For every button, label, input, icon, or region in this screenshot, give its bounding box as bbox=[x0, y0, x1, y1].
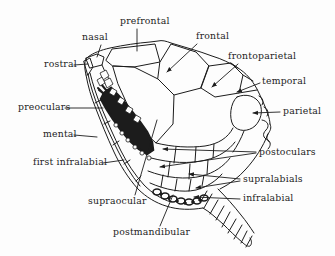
leader-supralabials-1 bbox=[189, 174, 240, 179]
leader-postoculars-1 bbox=[163, 149, 256, 152]
eye-shading bbox=[97, 70, 153, 160]
label-frontoparietal: frontoparietal bbox=[228, 51, 296, 61]
label-supraocular: supraocular bbox=[88, 196, 147, 206]
label-parietal: parietal bbox=[283, 106, 321, 116]
label-nasal: nasal bbox=[82, 32, 108, 42]
leader-frontoparietal bbox=[212, 64, 238, 87]
leader-parietal bbox=[253, 112, 280, 113]
scale-mesh bbox=[84, 44, 261, 191]
label-preoculars: preoculars bbox=[18, 102, 70, 112]
label-supralabials: supralabials bbox=[243, 174, 303, 184]
leader-frontal bbox=[167, 44, 197, 72]
preocular-scales bbox=[97, 70, 113, 88]
label-infralabial: infralabial bbox=[243, 193, 294, 203]
label-postoculars: postoculars bbox=[259, 147, 316, 157]
label-temporal: temporal bbox=[262, 76, 306, 86]
label-prefrontal: prefrontal bbox=[120, 16, 170, 26]
label-first-infralabial: first infralabial bbox=[33, 157, 107, 167]
label-frontal: frontal bbox=[196, 31, 229, 41]
figure-canvas: prefrontalnasalfrontalfrontoparietalrost… bbox=[0, 0, 335, 256]
label-mental: mental bbox=[43, 129, 77, 139]
leader-postmandibular bbox=[160, 195, 173, 226]
leader-mental bbox=[74, 135, 97, 137]
label-postmandibular: postmandibular bbox=[113, 227, 190, 237]
label-rostral: rostral bbox=[44, 59, 77, 69]
